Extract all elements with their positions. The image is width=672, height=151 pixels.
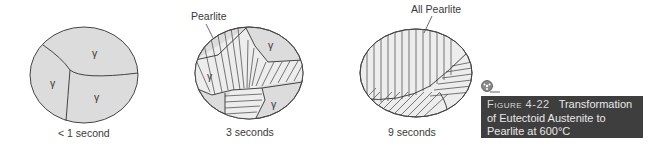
- gamma-label: γ: [50, 77, 55, 89]
- gamma-label: γ: [94, 91, 99, 103]
- film-reel-icon: [481, 80, 505, 94]
- caption-line-1: Transformation: [559, 98, 633, 110]
- time-label-3: 9 seconds: [388, 126, 436, 138]
- caption-line-3: Pearlite at 600°C: [487, 125, 637, 139]
- time-label-1: < 1 second: [58, 127, 110, 139]
- all-pearlite-panel: [358, 16, 472, 118]
- caption-line-2: of Eutectoid Austenite to: [487, 112, 637, 126]
- gamma-label: γ: [268, 39, 273, 51]
- time-label-2: 3 seconds: [226, 126, 274, 138]
- all-pearlite-callout: All Pearlite: [411, 3, 461, 15]
- figure-caption: Figure 4-22 Transformation of Eutectoid …: [481, 96, 643, 138]
- austenite-grains-panel: [30, 27, 138, 123]
- pearlite-callout: Pearlite: [191, 10, 227, 22]
- gamma-label: γ: [92, 47, 97, 59]
- figure-number: Figure 4-22: [487, 98, 550, 110]
- gamma-label: γ: [271, 98, 276, 110]
- gamma-label: γ: [207, 70, 212, 82]
